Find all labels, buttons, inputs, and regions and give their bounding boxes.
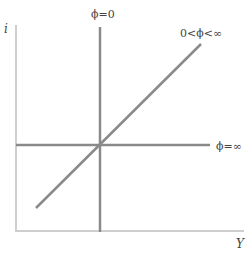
diagonal-curve-label: 0<ϕ<∞: [180, 27, 222, 40]
x-axis-label: Y: [236, 237, 245, 251]
vertical-curve-label: ϕ=0: [91, 8, 115, 21]
diagram: i Y ϕ=0 0<ϕ<∞ ϕ=∞: [0, 0, 252, 254]
diagonal-curve: [36, 44, 201, 208]
y-axis-label: i: [4, 22, 8, 36]
horizontal-curve-label: ϕ=∞: [216, 140, 242, 153]
